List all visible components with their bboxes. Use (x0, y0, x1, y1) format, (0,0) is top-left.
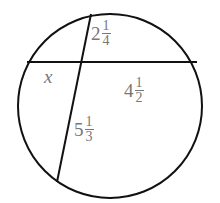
slanted-chord (57, 14, 91, 182)
label-top-segment: 2 1 4 (91, 19, 111, 48)
fraction: 1 4 (102, 19, 111, 48)
label-left-segment-x: x (44, 66, 52, 88)
numerator: 1 (136, 76, 143, 90)
fraction: 1 3 (85, 115, 94, 144)
denominator: 4 (103, 34, 110, 48)
numerator: 1 (86, 115, 93, 129)
numerator: 1 (103, 19, 110, 33)
label-bottom-segment: 5 1 3 (74, 115, 94, 144)
whole-part: 4 (124, 81, 134, 100)
denominator: 3 (86, 130, 93, 144)
label-right-segment: 4 1 2 (124, 76, 144, 105)
fraction: 1 2 (135, 76, 144, 105)
whole-part: 2 (91, 24, 101, 43)
denominator: 2 (136, 91, 143, 105)
whole-part: 5 (74, 120, 84, 139)
